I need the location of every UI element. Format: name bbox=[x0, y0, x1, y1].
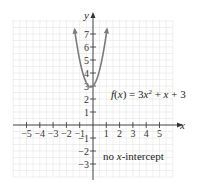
x-axis-label: x bbox=[179, 119, 185, 131]
y-tick-label: 5 bbox=[84, 55, 89, 66]
y-axis-label: y bbox=[83, 9, 89, 21]
x-tick-label: −3 bbox=[48, 128, 59, 139]
x-tick-label: −5 bbox=[21, 128, 32, 139]
x-tick-label: −4 bbox=[34, 128, 45, 139]
x-tick-label: 2 bbox=[117, 128, 122, 139]
y-tick-label: 2 bbox=[84, 94, 89, 105]
x-tick-label: 1 bbox=[104, 128, 109, 139]
y-tick-label: −2 bbox=[78, 146, 89, 157]
y-tick-label: −3 bbox=[78, 159, 89, 170]
y-tick-label: 7 bbox=[84, 29, 89, 40]
x-tick-label: 5 bbox=[157, 128, 162, 139]
parabola-curve bbox=[73, 27, 109, 87]
y-tick-label: −1 bbox=[78, 133, 89, 144]
x-tick-label: −2 bbox=[61, 128, 72, 139]
x-tick-label: 4 bbox=[144, 128, 149, 139]
y-tick-label: 1 bbox=[84, 107, 89, 118]
y-tick-label: 6 bbox=[84, 42, 89, 53]
x-tick-label: 3 bbox=[130, 128, 135, 139]
no-x-intercept-note: no x-intercept bbox=[103, 150, 164, 162]
parabola-graph: −5−4−3−2−112345−3−2−11234567 x y f(x) = … bbox=[0, 0, 207, 186]
